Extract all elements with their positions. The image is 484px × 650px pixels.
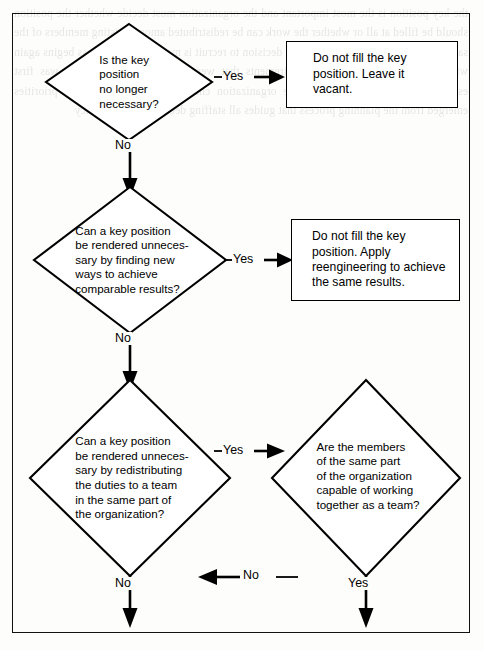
- connector-no-exit: No: [117, 576, 143, 628]
- process-node-1[interactable]: Do not fill the key position. Leave it v…: [286, 41, 458, 108]
- connector-no-1-label: No: [114, 139, 132, 152]
- connector-no-exit-label: No: [114, 577, 132, 590]
- process-node-1-label: Do not fill the key position. Leave it v…: [287, 51, 406, 97]
- connector-no-loop: No: [198, 566, 308, 588]
- connector-yes-3-label: Yes: [223, 444, 243, 457]
- process-node-2[interactable]: Do not fill the key position. Apply reen…: [291, 219, 460, 301]
- decision-node-2-label: Can a key position be rendered unneces- …: [75, 224, 188, 297]
- flowchart-page: the key position is the most important a…: [0, 0, 484, 650]
- decision-node-4[interactable]: Are the members of the same part of the …: [270, 378, 462, 578]
- connector-yes-exit-label: Yes: [347, 577, 369, 590]
- decision-node-3-label: Can a key position be rendered unneces- …: [75, 434, 188, 522]
- connector-yes-2-label: Yes: [233, 253, 253, 266]
- connector-yes-1: Yes: [213, 66, 285, 88]
- decision-node-4-label: Are the members of the same part of the …: [316, 440, 419, 513]
- connector-yes-2: Yes: [223, 249, 295, 271]
- decision-node-1[interactable]: Is the key position no longer necessary?: [44, 22, 214, 142]
- decision-node-1-label: Is the key position no longer necessary?: [99, 53, 158, 111]
- connector-no-2-label: No: [114, 332, 132, 345]
- connector-yes-1-label: Yes: [223, 70, 243, 83]
- decision-node-3[interactable]: Can a key position be rendered unneces- …: [28, 378, 232, 578]
- connector-yes-exit: Yes: [353, 576, 379, 628]
- process-node-2-label: Do not fill the key position. Apply reen…: [292, 229, 445, 291]
- decision-node-2[interactable]: Can a key position be rendered unneces- …: [32, 185, 228, 335]
- connector-no-loop-label: No: [243, 569, 259, 582]
